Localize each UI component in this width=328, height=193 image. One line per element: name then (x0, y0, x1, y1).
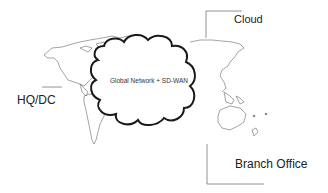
hq-node-label: HQ/DC (17, 93, 56, 107)
australia-outline (218, 106, 246, 130)
cloud-center-label: Global Network + SD-WAN (110, 77, 188, 84)
cloud-node-label: Cloud (234, 13, 263, 25)
branch-node-label: Branch Office (235, 157, 307, 171)
